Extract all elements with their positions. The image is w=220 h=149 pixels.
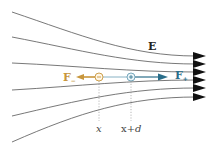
field-line <box>12 37 196 64</box>
field-line <box>12 97 196 142</box>
force-positive-symbol: F <box>175 69 183 82</box>
position-x-label: x <box>96 124 102 134</box>
position-d: d <box>135 123 141 134</box>
position-x-plus-d-label: x+d <box>121 124 141 134</box>
position-prefix: x+ <box>121 123 135 134</box>
positive-charge <box>127 73 135 81</box>
force-positive-label: F+ <box>175 70 188 82</box>
force-negative-label: F− <box>63 72 76 84</box>
field-arrowheads <box>193 52 206 101</box>
negative-charge <box>95 73 103 81</box>
arrowhead-left-icon <box>76 74 84 80</box>
arrowhead-icon <box>193 76 206 84</box>
field-line <box>12 12 196 56</box>
arrowhead-icon <box>193 84 206 92</box>
arrowhead-icon <box>193 68 206 76</box>
force-negative-subscript: − <box>71 77 76 84</box>
force-positive-arrow <box>135 74 168 81</box>
force-positive-subscript: + <box>183 75 188 82</box>
arrowhead-icon <box>193 60 206 68</box>
arrowhead-icon <box>193 93 206 101</box>
force-negative-symbol: F <box>63 71 71 84</box>
field-line <box>12 88 196 116</box>
field-line <box>12 63 196 72</box>
field-label: E <box>148 41 156 52</box>
arrowhead-icon <box>193 52 206 60</box>
force-negative-arrow <box>76 74 95 80</box>
arrowhead-right-icon <box>158 74 168 81</box>
